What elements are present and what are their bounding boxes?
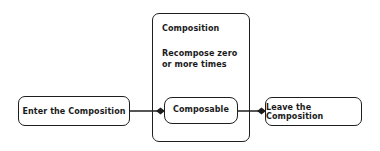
composable-node: Composable (164, 97, 238, 124)
leave-composition-node: Leave the Composition (265, 97, 362, 126)
leave-composition-label: Leave the Composition (266, 103, 361, 121)
enter-composition-label: Enter the Composition (22, 107, 125, 116)
enter-composition-node: Enter the Composition (18, 96, 130, 126)
composable-label: Composable (173, 105, 229, 114)
connectors (0, 0, 380, 151)
